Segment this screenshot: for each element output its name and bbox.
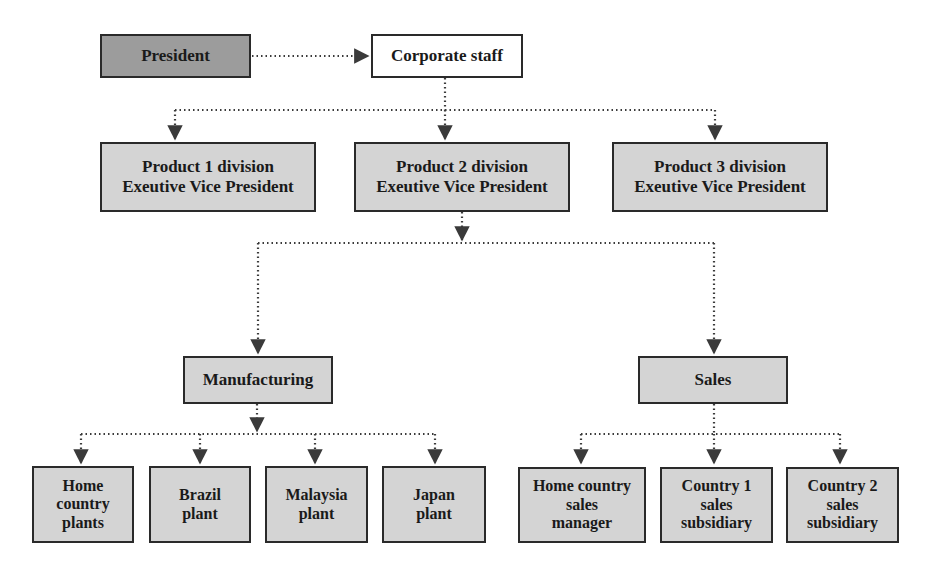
- home-country-plants-box: Home country plants: [32, 466, 134, 543]
- box-line: manager: [552, 514, 612, 532]
- box-line: Brazil: [179, 486, 221, 504]
- box-line: plant: [299, 505, 335, 523]
- box-line: subsidiary: [807, 514, 878, 532]
- manufacturing-label: Manufacturing: [203, 370, 314, 390]
- box-line: Country 1: [682, 477, 752, 495]
- product-1-division-box: Product 1 division Exeutive Vice Preside…: [100, 142, 316, 212]
- division-name: Product 1 division: [142, 157, 274, 177]
- box-line: sales: [701, 496, 733, 514]
- president-box: President: [100, 34, 251, 78]
- corporate-staff-box: Corporate staff: [371, 34, 523, 78]
- japan-plant-box: Japan plant: [382, 466, 486, 543]
- sales-label: Sales: [695, 370, 732, 390]
- division-head: Exeutive Vice President: [122, 177, 294, 197]
- box-line: Country 2: [808, 477, 878, 495]
- division-head: Exeutive Vice President: [634, 177, 806, 197]
- manufacturing-box: Manufacturing: [183, 356, 333, 404]
- box-line: sales: [566, 496, 598, 514]
- box-line: plant: [182, 505, 218, 523]
- box-line: Home: [63, 477, 104, 495]
- country-1-sales-subsidiary-box: Country 1 sales subsidiary: [660, 467, 773, 543]
- box-line: plant: [416, 505, 452, 523]
- malaysia-plant-box: Malaysia plant: [265, 466, 368, 543]
- division-head: Exeutive Vice President: [376, 177, 548, 197]
- box-line: Malaysia: [285, 486, 347, 504]
- box-line: sales: [827, 496, 859, 514]
- box-line: Home country: [533, 477, 631, 495]
- division-name: Product 2 division: [396, 157, 528, 177]
- corporate-staff-label: Corporate staff: [391, 46, 503, 66]
- division-name: Product 3 division: [654, 157, 786, 177]
- brazil-plant-box: Brazil plant: [149, 466, 251, 543]
- box-line: country: [56, 495, 109, 513]
- president-label: President: [141, 46, 210, 66]
- sales-box: Sales: [638, 356, 788, 404]
- box-line: plants: [62, 514, 104, 532]
- country-2-sales-subsidiary-box: Country 2 sales subsidiary: [786, 467, 899, 543]
- product-2-division-box: Product 2 division Exeutive Vice Preside…: [354, 142, 570, 212]
- box-line: subsidiary: [681, 514, 752, 532]
- box-line: Japan: [413, 486, 455, 504]
- product-3-division-box: Product 3 division Exeutive Vice Preside…: [612, 142, 828, 212]
- home-country-sales-manager-box: Home country sales manager: [518, 467, 646, 543]
